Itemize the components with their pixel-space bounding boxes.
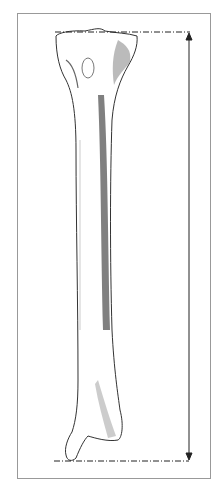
arrow-head-down-icon: [186, 453, 192, 460]
arrow-head-up-icon: [186, 33, 192, 40]
tibia-illustration: [0, 0, 222, 493]
bone-shape: [56, 29, 137, 461]
